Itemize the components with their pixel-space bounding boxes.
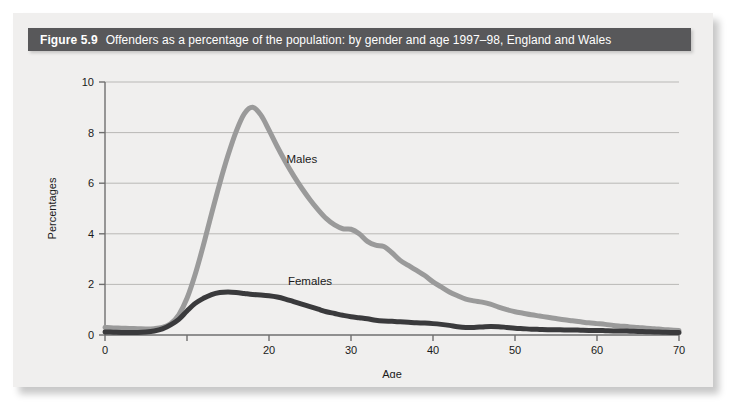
x-axis: 0203040506070	[102, 335, 685, 356]
y-tick-label: 8	[88, 127, 94, 139]
y-axis: 0246810	[82, 76, 105, 341]
y-axis-title: Percentages	[46, 177, 58, 239]
x-tick-label: 60	[591, 344, 603, 356]
x-axis-title: Age	[382, 368, 402, 378]
y-tick-label: 4	[88, 228, 94, 240]
series-line-females	[105, 292, 679, 333]
y-tick-label: 2	[88, 278, 94, 290]
x-tick-label: 30	[345, 344, 357, 356]
y-tick-label: 0	[88, 329, 94, 341]
x-tick-label: 40	[427, 344, 439, 356]
chart-plot-area: 0246810 0203040506070 MalesFemales Age P…	[28, 58, 691, 378]
y-tick-label: 10	[82, 76, 94, 88]
figure-title-bar: Figure 5.9 Offenders as a percentage of …	[28, 28, 691, 51]
x-tick-label: 20	[263, 344, 275, 356]
figure-number: Figure 5.9	[40, 33, 98, 47]
series-line-males	[105, 107, 679, 330]
figure-root: Figure 5.9 Offenders as a percentage of …	[0, 0, 741, 413]
series-label-males: Males	[286, 153, 317, 165]
line-chart-svg: 0246810 0203040506070 MalesFemales Age P…	[28, 58, 691, 378]
y-tick-label: 6	[88, 177, 94, 189]
x-tick-label: 70	[673, 344, 685, 356]
series-label-females: Females	[288, 275, 332, 287]
x-tick-label: 50	[509, 344, 521, 356]
figure-caption: Offenders as a percentage of the populat…	[106, 33, 612, 47]
x-tick-label: 0	[102, 344, 108, 356]
series-lines	[105, 107, 679, 332]
